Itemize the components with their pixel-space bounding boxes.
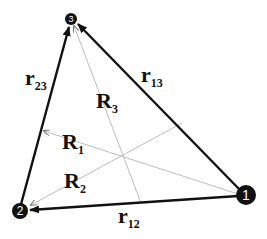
diagram-lines bbox=[0, 0, 267, 239]
node-3-label: 3 bbox=[68, 14, 73, 24]
triangle-diagram: 3 2 1 r23 r13 r12 R3 R1 R2 bbox=[0, 0, 267, 239]
median-R2-line bbox=[31, 123, 182, 205]
node-2: 2 bbox=[12, 203, 28, 219]
label-r23: r23 bbox=[25, 67, 47, 92]
label-R3: R3 bbox=[96, 90, 118, 115]
node-1-label: 1 bbox=[242, 187, 250, 203]
label-r12: r12 bbox=[118, 205, 140, 230]
node-3: 3 bbox=[65, 13, 77, 25]
node-1: 1 bbox=[236, 185, 256, 205]
node-2-label: 2 bbox=[17, 204, 24, 218]
label-R2: R2 bbox=[64, 170, 86, 195]
label-R1: R1 bbox=[62, 131, 84, 156]
label-r13: r13 bbox=[141, 64, 163, 89]
edge-r23-line bbox=[20, 27, 69, 208]
